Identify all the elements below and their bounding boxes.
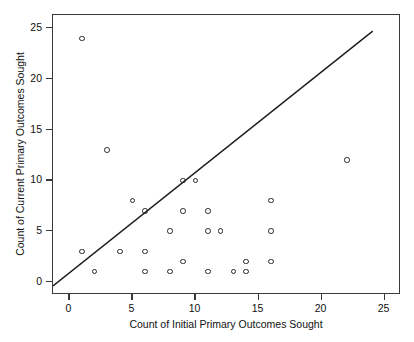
data-point: [180, 208, 186, 214]
y-axis-title: Count of Current Primary Outcomes Sought: [14, 14, 28, 294]
y-tick-mark: [46, 129, 52, 130]
data-point: [268, 259, 274, 265]
data-point: [167, 228, 173, 234]
data-point: [218, 228, 224, 234]
y-tick-mark: [46, 27, 52, 28]
data-point: [205, 208, 211, 214]
data-point: [180, 178, 186, 184]
y-tick-mark: [46, 179, 52, 180]
data-point: [193, 178, 199, 184]
data-point: [268, 228, 274, 234]
data-point: [205, 269, 211, 275]
data-point: [268, 198, 274, 204]
x-tick-label: 20: [304, 302, 338, 314]
data-point: [142, 269, 148, 275]
data-point: [205, 228, 211, 234]
data-point: [130, 198, 136, 204]
data-point: [117, 249, 123, 255]
y-tick-mark: [46, 281, 52, 282]
scatter-plot-figure: 0510152025 0510152025 Count of Initial P…: [0, 0, 414, 342]
data-point: [243, 259, 249, 265]
y-tick-mark: [46, 78, 52, 79]
identity-reference-line: [53, 15, 399, 293]
x-tick-label: 0: [51, 302, 85, 314]
x-tick-mark: [258, 294, 259, 300]
x-tick-mark: [68, 294, 69, 300]
data-point: [142, 249, 148, 255]
plot-frame: [52, 14, 400, 294]
x-tick-label: 15: [241, 302, 275, 314]
data-point: [142, 208, 148, 214]
data-point: [344, 157, 350, 163]
data-point: [104, 147, 110, 153]
x-axis-title: Count of Initial Primary Outcomes Sought: [52, 318, 400, 330]
data-point: [167, 269, 173, 275]
y-tick-mark: [46, 230, 52, 231]
plot-area: [53, 15, 399, 293]
data-point: [79, 249, 85, 255]
x-tick-mark: [194, 294, 195, 300]
x-tick-mark: [131, 294, 132, 300]
x-tick-label: 5: [114, 302, 148, 314]
x-tick-label: 25: [367, 302, 401, 314]
data-point: [79, 36, 85, 42]
data-point: [231, 269, 237, 275]
x-tick-label: 10: [177, 302, 211, 314]
x-tick-mark: [384, 294, 385, 300]
data-point: [243, 269, 249, 275]
data-point: [180, 259, 186, 265]
x-tick-mark: [321, 294, 322, 300]
reference-line-segment: [53, 31, 373, 286]
data-point: [92, 269, 98, 275]
